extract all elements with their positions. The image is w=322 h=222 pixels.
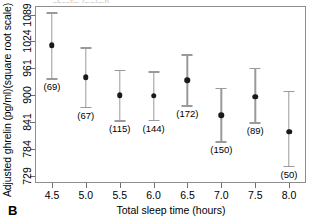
y-axis-title-text: Adjusted ghrelin (pg/ml)(square root sca… (1, 3, 13, 197)
x-axis-tick (255, 183, 256, 188)
error-bar-cap-upper (216, 88, 227, 89)
sample-size-label: (150) (210, 144, 232, 155)
data-point (117, 93, 123, 99)
data-point (185, 77, 191, 83)
x-axis-tick-label: 7.0 (214, 189, 229, 201)
x-axis-tick-label: 7.5 (248, 189, 263, 201)
y-axis-title: Adjusted ghrelin (pg/ml)(square root sca… (0, 0, 14, 200)
error-bar-cap-lower (182, 105, 193, 106)
error-bar-cap-lower (284, 166, 295, 167)
error-bar-cap-upper (284, 91, 295, 92)
x-axis-tick (187, 183, 188, 188)
sample-size-label: (67) (77, 110, 94, 121)
data-point (151, 93, 157, 99)
error-bar-cap-lower (46, 78, 57, 79)
x-axis-tick-label: 4.5 (45, 189, 60, 201)
x-axis-tick-label: 6.5 (180, 189, 195, 201)
x-axis-tick (52, 183, 53, 188)
cropped-top-text: ghrelin (pg/ml) (52, 0, 202, 3)
error-bar-cap-upper (182, 54, 193, 55)
y-axis-tick-label-text: 784 (21, 140, 33, 158)
figure-panel-b: ghrelin (pg/ml) Adjusted ghrelin (pg/ml)… (0, 0, 322, 222)
data-point (49, 42, 55, 48)
x-axis-tick (86, 183, 87, 188)
data-point (219, 112, 225, 118)
x-axis-tick (221, 183, 222, 188)
x-axis-tick (120, 183, 121, 188)
y-axis-tick-label-text: 900 (21, 86, 33, 104)
data-point (252, 94, 258, 100)
error-bar-cap-lower (216, 141, 227, 142)
y-axis-tick-label-text: 961 (21, 60, 33, 78)
data-point (83, 74, 89, 80)
error-bar-cap-lower (114, 120, 125, 121)
x-axis-tick-label: 5.5 (112, 189, 127, 201)
x-axis-tick-label: 5.0 (79, 189, 94, 201)
sample-size-label: (89) (247, 125, 264, 136)
error-bar-cap-upper (80, 47, 91, 48)
x-axis-tick (289, 183, 290, 188)
error-bar-cap-upper (114, 70, 125, 71)
panel-letter: B (8, 203, 17, 218)
sample-size-label: (144) (142, 123, 164, 134)
sample-size-label: (115) (109, 123, 130, 134)
error-bar-cap-lower (148, 120, 159, 121)
x-axis-tick-label: 8.0 (282, 189, 297, 201)
y-axis-tick-label-text: 1089 (21, 3, 33, 26)
error-bar-cap-upper (46, 12, 57, 13)
y-axis-tick-label-text: 841 (21, 113, 33, 131)
y-axis-tick-label-text: 729 (21, 167, 33, 185)
error-bar-cap-upper (148, 71, 159, 72)
y-axis-tick-label-text: 1024 (21, 30, 33, 53)
data-point (286, 129, 292, 135)
x-axis-title: Total sleep time (hours) (36, 204, 306, 216)
error-bar-cap-lower (80, 107, 91, 108)
x-axis-tick (154, 183, 155, 188)
x-axis-tick-label: 6.0 (146, 189, 161, 201)
error-bar-cap-upper (250, 68, 261, 69)
sample-size-label: (172) (176, 108, 198, 119)
plot-area (35, 6, 306, 183)
sample-size-label: (50) (281, 169, 298, 180)
error-bar-cap-lower (250, 122, 261, 123)
sample-size-label: (69) (43, 81, 60, 92)
